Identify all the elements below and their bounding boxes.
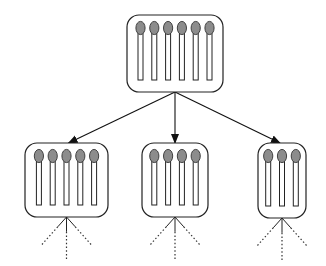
child-match-box-2 <box>142 143 208 217</box>
edge-arrow <box>69 92 176 143</box>
continuation-branches <box>150 217 200 259</box>
nodes <box>25 15 306 218</box>
continuation-branches <box>42 217 92 259</box>
match-tree-diagram <box>0 0 326 266</box>
child-match-box-3 <box>258 143 306 218</box>
continuation-branches <box>257 218 307 260</box>
child-match-box-1 <box>25 143 108 217</box>
root-match-box <box>127 15 223 92</box>
edge-arrow <box>175 92 280 143</box>
